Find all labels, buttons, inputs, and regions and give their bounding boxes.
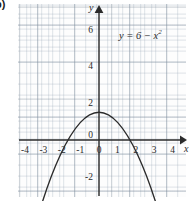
y-tick-6: 6 (81, 25, 93, 35)
equation-annotation: y = 6 − x2 (119, 28, 162, 41)
y-axis-arrowhead (95, 5, 104, 13)
graph-plot (0, 0, 195, 201)
figure-container: b) ‑4 ‑3 ‑2 ‑1 0 1 2 3 4 6 4 2 0 ‑2 y x … (0, 0, 195, 201)
x-tick-1: 1 (115, 145, 120, 155)
y-tick-0: 0 (81, 130, 93, 140)
x-axis-label: x (184, 143, 188, 154)
x-tick--3: ‑3 (39, 145, 47, 155)
y-tick--2: ‑2 (79, 172, 93, 182)
x-tick--4: ‑4 (21, 145, 29, 155)
y-axis-label: y (89, 2, 93, 13)
x-tick-0: 0 (97, 145, 102, 155)
x-tick--2: ‑2 (58, 145, 66, 155)
y-tick-4: 4 (81, 61, 93, 71)
y-tick-2: 2 (81, 98, 93, 108)
equation-base: y = 6 − x (119, 30, 158, 41)
x-tick--1: ‑1 (76, 145, 84, 155)
equation-exponent: 2 (158, 28, 162, 36)
x-tick-3: 3 (152, 145, 157, 155)
x-tick-2: 2 (133, 145, 138, 155)
x-tick-4: 4 (170, 145, 175, 155)
